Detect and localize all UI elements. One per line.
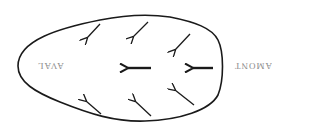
label-aval: AVAL [37,61,64,71]
arrow-icon-top-left [87,24,100,38]
arrow-icon-bottom-middle [135,101,151,116]
arrow-icon-bottom-right [175,90,194,105]
label-amont: AMONT [234,61,272,71]
arrow-icon-top-middle [133,22,148,37]
arrow-icon-top-right [175,34,190,50]
